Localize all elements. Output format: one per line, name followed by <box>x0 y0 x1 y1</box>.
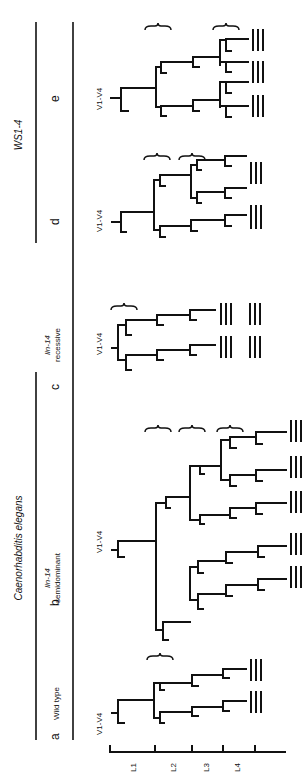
brace-icon <box>179 425 205 432</box>
organism-title: Caenorhabditis elegans <box>13 495 24 600</box>
panel-label-d: d <box>48 218 62 225</box>
panel-e-lineage <box>111 23 263 117</box>
panel-e-cells-label: V1-V4 <box>95 87 104 110</box>
panel-label-e: e <box>48 95 62 102</box>
panel-label-a: a <box>48 733 62 740</box>
comparison-title: WS1-4 <box>13 119 24 150</box>
brace-icon <box>145 23 171 30</box>
panel-c-cells-label: V1-V4 <box>95 332 104 355</box>
vulval-marks-b <box>291 421 301 587</box>
panel-c-title-gene: lin-14 <box>43 335 52 355</box>
panel-b-title-gene: lin-14 <box>43 568 52 588</box>
panel-b-cells-label: V1-V4 <box>95 530 104 553</box>
axis-label-l2: L2 <box>169 763 178 772</box>
brace-icon <box>145 425 171 432</box>
panel-c-lineage <box>111 303 260 370</box>
panel-a-lineage <box>112 653 261 723</box>
panel-b-lineage <box>112 421 301 640</box>
brace-icon <box>147 653 173 660</box>
brace-icon <box>213 23 239 30</box>
axis-label-l4: L4 <box>233 763 242 772</box>
panel-a-title: Wild type <box>52 687 61 720</box>
panel-label-c: c <box>48 384 62 390</box>
brace-icon <box>179 153 205 160</box>
panel-a-cells-label: V1-V4 <box>95 712 104 735</box>
panel-d-cells-label: V1-V4 <box>95 209 104 232</box>
panel-d-lineage <box>112 153 261 237</box>
vulval-marks-e <box>253 30 263 116</box>
brace-icon <box>111 303 137 310</box>
axis-label-l1: L1 <box>129 763 138 772</box>
vulval-marks-c <box>221 304 260 357</box>
brace-icon <box>217 425 243 432</box>
panel-c-title: recessive <box>53 328 62 362</box>
time-axis <box>110 746 285 752</box>
brace-icon <box>144 153 170 160</box>
lineage-figure: Caenorhabditis elegans WS1-4 a b c d e W… <box>0 0 308 774</box>
vulval-marks-d <box>251 163 261 228</box>
panel-b-title: semidominant <box>53 552 62 603</box>
axis-label-l3: L3 <box>202 763 211 772</box>
